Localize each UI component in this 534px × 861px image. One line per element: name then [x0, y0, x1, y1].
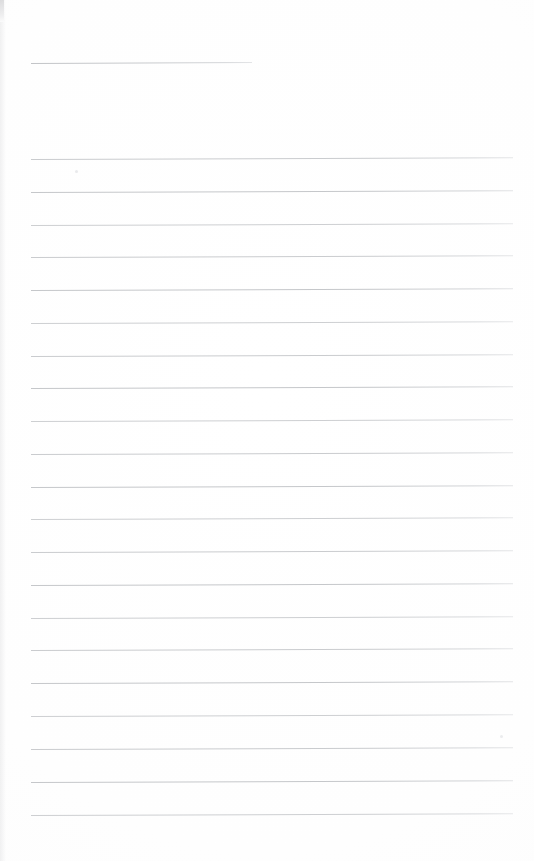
rule-line [31, 157, 513, 160]
rule-line [31, 485, 513, 488]
rule-line [31, 714, 513, 717]
rule-line [31, 223, 513, 226]
rule-line [31, 517, 513, 520]
scan-edge-artifact [0, 0, 4, 22]
scan-left-edge-wash [0, 0, 6, 861]
rule-line [31, 321, 513, 324]
rule-line [31, 550, 513, 553]
rule-line [31, 780, 513, 783]
speck-lower-right [500, 735, 503, 738]
rule-line [31, 419, 513, 422]
rule-line [31, 190, 513, 193]
rule-line [31, 648, 513, 651]
header-rule [31, 62, 252, 64]
rule-line [31, 583, 513, 586]
rule-line [31, 354, 513, 357]
scanned-page [0, 0, 534, 861]
rule-line [31, 288, 513, 291]
paper-surface [0, 0, 534, 861]
rule-line [31, 747, 513, 750]
rule-line [31, 386, 513, 389]
rule-line [31, 616, 513, 619]
speck-upper-left [75, 170, 78, 173]
rule-line [31, 452, 513, 455]
rule-line [31, 255, 513, 258]
rule-line [31, 813, 513, 816]
rule-line [31, 681, 513, 684]
